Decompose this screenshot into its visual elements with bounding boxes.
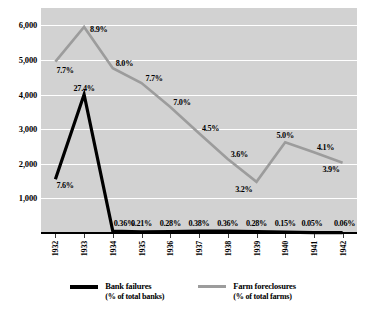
- legend-label-block: Bank failures(% of total banks): [105, 281, 164, 301]
- legend-swatch: [70, 285, 98, 289]
- tick-mark: [199, 234, 200, 238]
- x-axis-label: 1936: [166, 241, 175, 256]
- data-label-bank-1940: 0.15%: [275, 219, 296, 228]
- x-axis: 1932193319341935193619371938193919401941…: [41, 232, 357, 282]
- x-axis-label: 1934: [108, 241, 117, 256]
- tick-mark: [142, 234, 143, 238]
- x-axis-label: 1941: [309, 241, 318, 256]
- data-label-bank-1942: 0.06%: [334, 219, 355, 228]
- legend-item-bank-failures[interactable]: Bank failures(% of total banks): [70, 281, 164, 301]
- x-axis-label: 1942: [338, 241, 347, 256]
- series-line-bank-failures: [55, 95, 342, 233]
- y-axis-label: 4,000: [19, 90, 37, 100]
- chart-legend: Bank failures(% of total banks)Farm fore…: [0, 281, 366, 307]
- data-label-farm-1937: 4.5%: [202, 124, 219, 133]
- x-axis-label: 1937: [195, 241, 204, 256]
- tick-mark: [314, 234, 315, 238]
- figure-caption: [0, 310, 366, 314]
- tick-mark: [113, 234, 114, 238]
- legend-sublabel: (% of total banks): [105, 292, 164, 301]
- tick-mark: [55, 234, 56, 238]
- legend-item-farm-foreclosures[interactable]: Farm foreclosures(% of total farms): [198, 281, 296, 301]
- tick-mark: [228, 234, 229, 238]
- y-axis-label: 5,000: [19, 55, 37, 65]
- x-axis-label: 1938: [223, 241, 232, 256]
- legend-swatch: [198, 285, 226, 288]
- data-label-farm-1939: 3.2%: [235, 185, 252, 194]
- data-label-farm-1934: 8.0%: [116, 59, 133, 68]
- x-axis-label: 1940: [281, 241, 290, 256]
- legend-label: Farm foreclosures: [233, 281, 296, 292]
- x-axis-label: 1935: [137, 241, 146, 256]
- tick-mark: [84, 234, 85, 238]
- y-axis-label: 2,000: [19, 159, 37, 169]
- tick-mark: [343, 234, 344, 238]
- data-label-farm-1935: 7.7%: [146, 74, 163, 83]
- data-label-farm-1938: 3.6%: [231, 150, 248, 159]
- x-axis-label: 1932: [51, 241, 60, 256]
- data-label-bank-1936: 0.28%: [160, 219, 181, 228]
- data-label-bank-1941: 0.05%: [301, 219, 322, 228]
- data-label-farm-1932: 7.7%: [56, 66, 73, 75]
- x-axis-label: 1933: [80, 241, 89, 256]
- tick-mark: [257, 234, 258, 238]
- y-axis-label: 3,000: [19, 124, 37, 134]
- data-label-bank-1937: 0.38%: [188, 219, 209, 228]
- data-label-farm-1933: 8.9%: [90, 25, 107, 34]
- data-label-bank-1933: 27.4%: [74, 84, 95, 93]
- legend-label: Bank failures: [105, 281, 164, 292]
- data-label-bank-1938: 0.36%: [217, 219, 238, 228]
- chart-figure: 1,0002,0003,0004,0005,0006,000 193219331…: [0, 0, 366, 314]
- data-label-farm-1940: 5.0%: [277, 131, 294, 140]
- legend-label-block: Farm foreclosures(% of total farms): [233, 281, 296, 301]
- data-label-farm-1942: 3.9%: [322, 165, 339, 174]
- data-label-bank-1932: 7.6%: [56, 181, 73, 190]
- legend-sublabel: (% of total farms): [233, 292, 296, 301]
- y-axis-label: 1,000: [19, 193, 37, 203]
- data-label-bank-1935: 0.21%: [131, 219, 152, 228]
- y-axis-label: 6,000: [19, 20, 37, 30]
- tick-mark: [285, 234, 286, 238]
- data-label-farm-1936: 7.0%: [173, 98, 190, 107]
- data-label-bank-1939: 0.28%: [246, 219, 267, 228]
- y-axis: 1,0002,0003,0004,0005,0006,000: [0, 0, 41, 240]
- x-axis-label: 1939: [252, 241, 261, 256]
- series-layer: [41, 8, 357, 233]
- data-label-farm-1941: 4.1%: [317, 143, 334, 152]
- tick-mark: [170, 234, 171, 238]
